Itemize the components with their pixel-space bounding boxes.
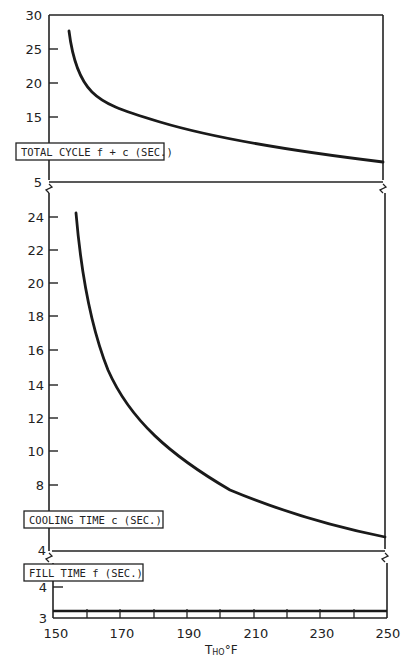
ytick-mid-6: 12 — [27, 411, 44, 426]
ytick-top-3: 15 — [25, 110, 42, 125]
panel-fill-time: 4 3 FILL TIME f (SEC.) — [24, 563, 387, 626]
axis-break-right-2 — [382, 553, 388, 562]
ytick-mid-9: 4 — [38, 543, 46, 558]
ytick-mid-7: 10 — [27, 444, 44, 459]
xtick-2: 190 — [177, 626, 202, 641]
xtick-1: 170 — [110, 626, 135, 641]
axis-break-left-1 — [46, 184, 52, 193]
ytick-mid-0: 24 — [27, 210, 44, 225]
ytick-mid-5: 14 — [27, 378, 44, 393]
ytick-mid-8: 8 — [36, 478, 44, 493]
cooling-time-label: COOLING TIME c (SEC.) — [29, 514, 162, 526]
total-cycle-label: TOTAL CYCLE f + c (SEC.) — [21, 146, 173, 158]
ytick-top-4: 5 — [34, 175, 42, 190]
ytick-top-0: 30 — [25, 8, 42, 23]
xtick-0: 150 — [44, 626, 69, 641]
x-axis-title: THO°F — [204, 643, 238, 657]
xtick-5: 250 — [376, 626, 401, 641]
ytick-top-2: 20 — [25, 76, 42, 91]
cooling-time-curve — [76, 213, 385, 537]
panel-cooling-time: 24 22 20 18 16 14 12 10 8 4 COOLING TIME… — [24, 193, 385, 558]
ytick-mid-2: 20 — [27, 276, 44, 291]
chart-canvas: 30 25 20 15 5 TOTAL CYCLE f + c (SEC.) 2… — [0, 0, 402, 667]
axis-break-right-1 — [380, 184, 386, 193]
x-axis: 150 170 190 210 230 250 THO°F — [44, 626, 401, 657]
panel-total-cycle: 30 25 20 15 5 TOTAL CYCLE f + c (SEC.) — [16, 8, 383, 190]
fill-time-label: FILL TIME f (SEC.) — [29, 567, 143, 579]
axis-break-left-2 — [46, 553, 52, 562]
xtick-3: 210 — [244, 626, 269, 641]
ytick-mid-1: 22 — [27, 243, 44, 258]
ytick-mid-4: 16 — [27, 343, 44, 358]
ytick-bot-0: 4 — [39, 580, 47, 595]
ytick-mid-3: 18 — [27, 309, 44, 324]
xtick-4: 230 — [310, 626, 335, 641]
ytick-top-1: 25 — [25, 42, 42, 57]
ytick-bot-1: 3 — [39, 611, 47, 626]
